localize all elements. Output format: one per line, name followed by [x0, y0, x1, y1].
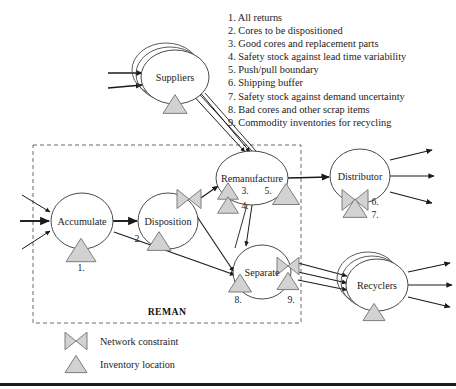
bottom-horizontal-rule: [0, 383, 456, 386]
key-shape-network-constraint: [65, 332, 87, 350]
key-label-network-constraint: Network constraint: [100, 336, 178, 347]
edge-arrow: [390, 150, 432, 160]
marker-number-m1: 1.: [77, 262, 84, 273]
node-disposition[interactable]: [138, 193, 198, 249]
key-label-inventory-location: Inventory location: [100, 359, 175, 370]
key-shape-inventory-location: [65, 355, 87, 372]
edge-arrow: [390, 192, 432, 203]
marker-number-m5: 5.: [264, 185, 271, 196]
key-shapes: [65, 332, 87, 372]
legend-list-item: 1. All returns: [228, 11, 456, 24]
marker-number-m4: 4.: [241, 200, 248, 211]
edge-arrow: [288, 177, 329, 178]
marker-number-m9b: 9.: [287, 294, 294, 305]
edge-arrow: [108, 85, 142, 88]
legend-list-item: 8. Bad cores and other scrap items: [228, 103, 456, 116]
legend-list-item: 6. Shipping buffer: [228, 76, 456, 89]
legend-list-item: 3. Good cores and replacement parts: [228, 37, 456, 50]
node-recyclers[interactable]: [346, 259, 408, 311]
edge-arrow: [246, 205, 252, 246]
bottom-rule: [0, 383, 456, 386]
marker-number-m2: 2.: [134, 233, 141, 244]
legend-list-item: 7. Safety stock against demand uncertain…: [228, 90, 456, 103]
legend-list-item: 5. Push/pull boundary: [228, 63, 456, 76]
edge-arrow: [22, 195, 50, 212]
legend-list-item: 2. Cores to be dispositioned: [228, 24, 456, 37]
figure-canvas: 1. All returns2. Cores to be disposition…: [0, 0, 456, 389]
edge-arrow: [22, 231, 50, 249]
edge-arrow: [408, 263, 450, 272]
marker-number-m3: 3.: [241, 185, 248, 196]
numbered-legend-list: 1. All returns2. Cores to be disposition…: [228, 11, 456, 129]
marker-number-m6: 6.: [371, 196, 378, 207]
legend-list-item: 4. Safety stock against lead time variab…: [228, 50, 456, 63]
reman-boundary-label: REMAN: [148, 306, 187, 317]
legend-list-item: 9. Commodity inventories for recycling: [228, 116, 456, 129]
marker-number-m7: 7.: [371, 209, 378, 220]
node-distributor[interactable]: [330, 149, 390, 203]
edge-arrow: [408, 297, 450, 307]
marker-number-m8: 8.: [234, 294, 241, 305]
